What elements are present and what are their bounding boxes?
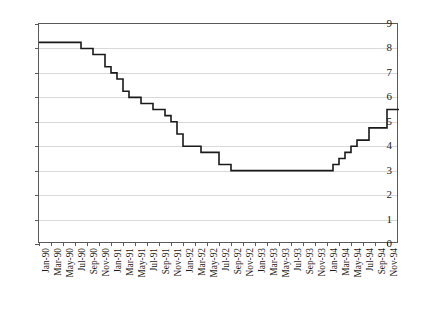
x-tick-label: Sep-90: [90, 248, 99, 274]
y-tick-label: 6: [378, 91, 392, 102]
y-tick-label: 8: [378, 42, 392, 53]
x-tick-label: Sep-94: [378, 248, 387, 274]
x-tick-label: Jul-90: [78, 248, 87, 271]
x-tick-label: Jul-93: [294, 248, 303, 271]
x-tick-label: Sep-92: [234, 248, 243, 274]
x-tick-label: Mar-94: [342, 248, 351, 276]
y-tick-label: 3: [378, 164, 392, 175]
series-polyline: [39, 42, 399, 170]
x-tick-label: May-94: [354, 248, 363, 277]
x-tick-label: Sep-91: [162, 248, 171, 274]
x-tick-label: Nov-90: [102, 248, 111, 276]
x-tick-label: Mar-91: [126, 248, 135, 276]
x-tick-label: May-91: [138, 248, 147, 277]
x-tick-label: Nov-93: [318, 248, 327, 276]
x-tick-label: Jan-91: [114, 248, 123, 273]
x-tick-label: Mar-93: [270, 248, 279, 276]
chart-figure: 0123456789 Jan-90Mar-90May-90Jul-90Sep-9…: [0, 0, 434, 310]
y-tick-label: 7: [378, 66, 392, 77]
y-tick-label: 0: [378, 238, 392, 249]
x-tick-label: May-92: [210, 248, 219, 277]
y-tick-label: 4: [378, 140, 392, 151]
plot-area: [38, 23, 398, 243]
x-tick-label: Jan-92: [186, 248, 195, 273]
y-tick-label: 1: [378, 213, 392, 224]
x-tick-label: Nov-91: [174, 248, 183, 276]
x-tick-label: Nov-92: [246, 248, 255, 276]
x-tick-label: May-90: [66, 248, 75, 277]
x-tick-label: Jan-93: [258, 248, 267, 273]
series-step-line: [39, 24, 399, 244]
y-tick-label: 9: [378, 18, 392, 29]
x-tick-label: Jan-94: [330, 248, 339, 273]
y-tick-label: 5: [378, 115, 392, 126]
y-tick-label: 2: [378, 189, 392, 200]
x-tick-label: Jul-91: [150, 248, 159, 271]
x-tick-label: Mar-92: [198, 248, 207, 276]
x-tick-label: Sep-93: [306, 248, 315, 274]
x-tick-label: Jul-94: [366, 248, 375, 271]
x-tick-label: Mar-90: [54, 248, 63, 276]
x-tick-label: Jul-92: [222, 248, 231, 271]
x-tick-label: May-93: [282, 248, 291, 277]
x-tick-label: Jan-90: [42, 248, 51, 273]
x-tick-label: Nov-94: [390, 248, 399, 276]
